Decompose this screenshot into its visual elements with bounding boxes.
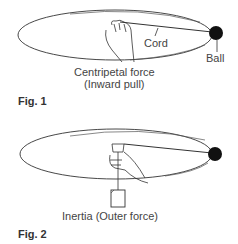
label-ball: Ball [206,52,224,64]
orbit-path-2 [20,129,212,179]
label-inward-pull: (Inward pull) [84,78,145,90]
fig2-drawing [20,129,222,207]
label-inertia: Inertia (Outer force) [62,210,158,222]
weight [111,190,125,207]
hand-icon [106,20,134,62]
ball-2 [208,147,222,161]
diagram-canvas [0,0,238,244]
ball [209,26,223,40]
caption-fig1: Fig. 1 [18,95,47,107]
fig1-drawing [18,10,223,62]
label-centripetal-force: Centripetal force [74,66,155,78]
caption-fig2: Fig. 2 [18,228,47,240]
label-cord: Cord [144,37,168,49]
